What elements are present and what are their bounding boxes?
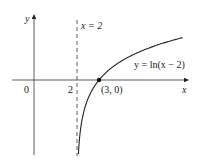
y-axis-label: y xyxy=(24,13,30,24)
origin-label: 0 xyxy=(24,84,29,95)
log-curve xyxy=(78,38,182,154)
point-label: (3, 0) xyxy=(101,84,123,96)
asymptote-label: x = 2 xyxy=(80,20,102,31)
point-3-0 xyxy=(97,78,101,82)
graph: y x 0 2 x = 2 y = ln(x − 2) (3, 0) xyxy=(0,0,200,164)
tick-2-label: 2 xyxy=(68,84,73,95)
x-axis-label: x xyxy=(181,84,187,95)
curve-label: y = ln(x − 2) xyxy=(134,59,185,71)
